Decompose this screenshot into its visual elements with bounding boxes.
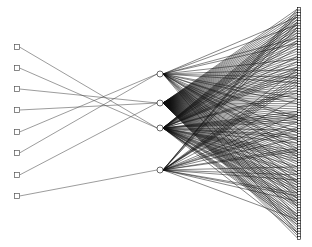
hidden-node	[157, 100, 163, 106]
input-node	[15, 66, 20, 71]
network-diagram	[0, 0, 312, 247]
input-node	[15, 151, 20, 156]
input-node	[15, 108, 20, 113]
output-node	[297, 236, 300, 239]
hidden-node	[157, 125, 163, 131]
hidden-node	[157, 71, 163, 77]
input-node	[15, 173, 20, 178]
input-node	[15, 130, 20, 135]
hidden-node	[157, 167, 163, 173]
input-node	[15, 87, 20, 92]
output-nodes	[297, 7, 300, 239]
input-node	[15, 45, 20, 50]
graph-canvas	[0, 0, 312, 247]
input-node	[15, 194, 20, 199]
